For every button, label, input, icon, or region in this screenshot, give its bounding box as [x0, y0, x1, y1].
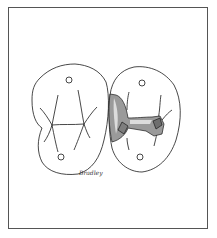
- left-tooth-outline: [32, 64, 108, 175]
- artist-signature: Bradley: [79, 169, 103, 176]
- cavity-preparation: [109, 94, 164, 142]
- teeth-illustration: [0, 0, 217, 238]
